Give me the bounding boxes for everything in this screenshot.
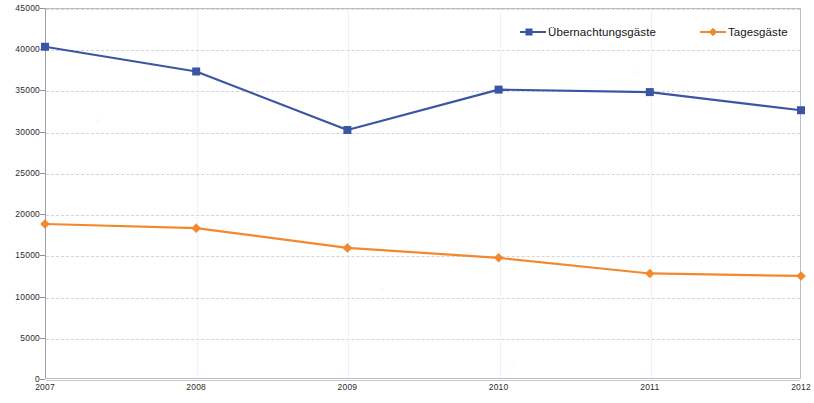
y-axis-tick-label: 40000	[15, 44, 40, 54]
y-axis-tick-label: 45000	[15, 3, 40, 13]
data-point-marker-diamond	[343, 243, 353, 253]
series-line	[45, 224, 801, 276]
line-chart: 4500040000350003000025000200001500010000…	[0, 0, 814, 403]
gridline-horizontal	[46, 380, 800, 381]
x-axis-tick-label: 2008	[186, 382, 206, 392]
legend-item-label: Tagesgäste	[728, 26, 788, 38]
data-point-marker-square	[192, 67, 200, 75]
x-axis: 200720082009201020112012	[45, 382, 801, 398]
data-point-marker-diamond	[796, 271, 806, 281]
y-axis-tick-label: 10000	[15, 292, 40, 302]
legend-swatch-icon	[700, 27, 726, 37]
y-axis-tick-label: 30000	[15, 127, 40, 137]
data-point-marker-square	[495, 86, 503, 94]
data-point-marker-square	[646, 88, 654, 96]
legend-item-label: Übernachtungsgäste	[548, 26, 656, 38]
y-axis: 4500040000350003000025000200001500010000…	[0, 8, 40, 379]
y-axis-tick-mark	[40, 379, 45, 380]
y-axis-tick-label: 20000	[15, 209, 40, 219]
x-axis-tick-label: 2011	[640, 382, 659, 392]
y-axis-tick-label: 5000	[20, 333, 40, 343]
y-axis-tick-label: 25000	[15, 168, 40, 178]
legend-item: Übernachtungsgäste	[520, 26, 656, 38]
x-axis-tick-label: 2007	[35, 382, 55, 392]
data-point-marker-diamond	[40, 219, 50, 229]
x-axis-tick-label: 2009	[338, 382, 358, 392]
series-uebernachtungsgaeste	[41, 43, 805, 134]
data-point-marker-square	[41, 43, 49, 51]
y-axis-tick-label: 15000	[15, 250, 40, 260]
series-tagesgaeste	[40, 219, 806, 281]
legend-swatch-icon	[520, 27, 546, 37]
x-axis-tick-label: 2010	[489, 382, 509, 392]
series-layer	[45, 8, 801, 379]
data-point-marker-diamond	[645, 269, 655, 279]
legend-item: Tagesgäste	[700, 26, 788, 38]
y-axis-tick-label: 35000	[15, 85, 40, 95]
data-point-marker-diamond	[494, 253, 504, 263]
series-line	[45, 47, 801, 130]
data-point-marker-square	[343, 126, 351, 134]
x-axis-tick-label: 2012	[791, 382, 811, 392]
chart-legend: ÜbernachtungsgästeTagesgäste	[520, 26, 788, 38]
data-point-marker-square	[797, 106, 805, 114]
data-point-marker-diamond	[191, 223, 201, 233]
